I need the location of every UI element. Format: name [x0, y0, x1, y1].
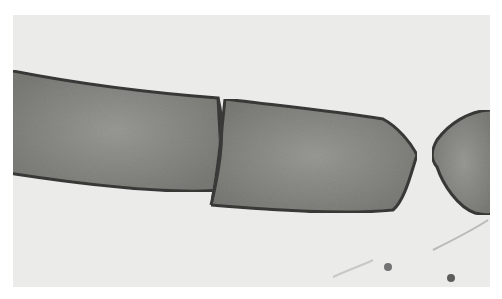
speck	[384, 263, 392, 271]
micrograph-svg	[13, 15, 490, 287]
faint-streak	[333, 260, 373, 277]
bacterium-middle	[211, 99, 417, 212]
bacterium-right	[433, 110, 491, 215]
micrograph-photo	[13, 15, 490, 287]
speck	[447, 274, 455, 282]
faint-streak	[433, 220, 488, 250]
bacterium-left	[13, 70, 223, 191]
